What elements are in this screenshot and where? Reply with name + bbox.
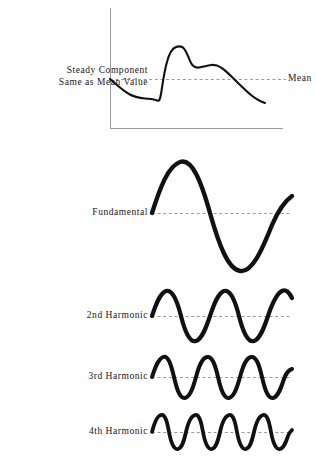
fundamental-label: Fundamental <box>0 206 148 218</box>
fundamental-wave-group <box>152 162 292 272</box>
third-harmonic-label: 3rd Harmonic <box>0 370 148 382</box>
second-harmonic-wave <box>152 290 292 341</box>
steady-component-label-line1: Steady Component <box>0 64 148 76</box>
mean-label: Mean <box>288 72 312 84</box>
steady-component-label: Steady Component Same as Mean Value <box>0 64 148 88</box>
second-harmonic-wave-group <box>152 290 292 341</box>
second-harmonic-label: 2nd Harmonic <box>0 309 148 321</box>
fourth-harmonic-label: 4th Harmonic <box>0 425 148 437</box>
third-harmonic-wave-group <box>152 357 292 398</box>
fundamental-wave <box>152 162 292 272</box>
fourth-harmonic-wave-group <box>152 415 292 449</box>
steady-component-label-line2: Same as Mean Value <box>0 76 148 88</box>
